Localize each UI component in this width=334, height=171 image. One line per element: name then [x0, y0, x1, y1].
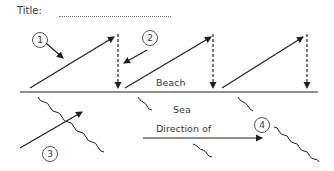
wave-crest-3: [238, 97, 253, 111]
beach-label: Beach: [156, 77, 185, 88]
pointer-2: [124, 50, 147, 63]
direction-label: Direction of: [156, 123, 211, 134]
wave-crest-5: [274, 127, 319, 162]
pointer-1: [46, 43, 63, 58]
marker-1: 1: [32, 32, 48, 48]
wave-crest-2: [138, 97, 152, 110]
swash-arrow-3: [222, 37, 303, 88]
wave-crest-1: [38, 97, 104, 152]
marker-4: 4: [254, 117, 270, 133]
wave-direction-arrow: [20, 112, 82, 148]
marker-2: 2: [142, 30, 158, 46]
marker-3: 3: [42, 146, 58, 162]
wave-crest-4: [193, 144, 212, 157]
sea-label: Sea: [173, 104, 191, 115]
